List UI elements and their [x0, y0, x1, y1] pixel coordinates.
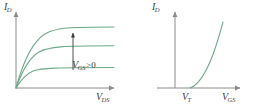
threshold-voltage-label: VT: [182, 92, 192, 102]
left-plot-y-axis-label: ID: [4, 2, 12, 12]
curve-transfer: [190, 22, 223, 88]
threshold-label-sub: T: [188, 96, 192, 103]
left-plot-group: [16, 12, 114, 88]
right-plot-y-axis-label: ID: [152, 2, 160, 12]
plots-canvas: [0, 0, 255, 112]
curve-vgs-low: [16, 68, 114, 89]
mosfet-characteristics-figure: ID VDS VGS>0 ID VGS VT: [0, 0, 255, 112]
vgs-annotation-operator: >0: [86, 60, 96, 70]
right-y-label-sub: D: [155, 6, 160, 13]
left-y-label-sub: D: [7, 6, 12, 13]
left-plot-x-axis-label: VDS: [96, 92, 110, 102]
vgs-annotation-sub: GS: [78, 64, 86, 71]
curve-vgs-medium: [16, 46, 114, 88]
vgs-annotation-label: VGS>0: [72, 60, 96, 70]
curve-vgs-high: [16, 27, 114, 88]
right-plot-x-axis-label: VGS: [222, 92, 236, 102]
right-plot-group: [157, 12, 240, 88]
right-x-label-sub: GS: [228, 96, 236, 103]
left-x-label-sub: DS: [102, 96, 110, 103]
